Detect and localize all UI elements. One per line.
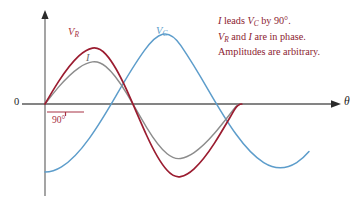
note-line-3: Amplitudes are arbitrary. (218, 46, 360, 59)
note-1-by-ninety: by 90°. (259, 15, 291, 26)
curve-label-i: I (86, 52, 90, 63)
curve-label-vc-subscript: C (162, 29, 167, 38)
note-line-2: VR and I are in phase. (218, 31, 360, 47)
origin-label: 0 (14, 96, 19, 107)
curve-i (45, 62, 242, 159)
x-axis (22, 100, 341, 108)
note-line-1: I leads VC by 90°. (218, 15, 360, 31)
annotation-note-block: I leads VC by 90°. VR and I are in phase… (218, 15, 360, 59)
curve-label-i-text: I (86, 52, 90, 63)
note-2-in-phase: are in phase. (252, 31, 306, 42)
curve-label-vr: VR (68, 26, 79, 39)
curve-label-vc: VC (156, 25, 167, 38)
note-1-leads: leads (221, 15, 247, 26)
phase-marker-label: 90° (52, 114, 65, 125)
curve-label-vr-subscript: R (74, 30, 79, 39)
waveform-figure: 0 θ 90° VR I VC I leads VC by 90°. VR an… (0, 0, 363, 200)
note-2-and: and (229, 31, 249, 42)
x-axis-label: θ (344, 95, 350, 107)
